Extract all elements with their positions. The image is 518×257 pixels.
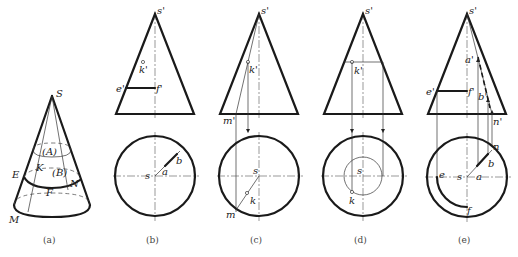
label-s: s — [457, 171, 462, 182]
label-s-prime: s' — [469, 5, 477, 16]
label-e: E — [11, 169, 20, 180]
label-s-prime: s' — [261, 5, 269, 16]
label-e: e — [439, 169, 445, 180]
label-b: b — [488, 158, 494, 169]
label-k: k — [250, 195, 256, 206]
label-k: K — [35, 162, 44, 173]
panel-e: s' a' b' e' f' n' s a b n e f (e) — [425, 5, 511, 245]
label-region-a: (A) — [42, 146, 57, 157]
label-b-prime: b' — [478, 91, 487, 102]
cone-base-visible-arc — [14, 205, 90, 217]
label-n: N — [69, 178, 80, 189]
panel-a-pictorial-cone: S (A) K (B) E F N M (a) — [8, 88, 90, 245]
label-b: b — [176, 155, 182, 166]
panel-b: s' k' e' f' s a b (b) — [113, 5, 199, 245]
caption-d: (d) — [354, 235, 367, 245]
label-f: F — [45, 187, 54, 198]
panel-d: s' k' s k (d) — [321, 5, 407, 245]
line-a-b — [477, 154, 488, 166]
label-f: f — [466, 205, 473, 216]
label-region-b: (B) — [52, 167, 67, 178]
label-s: s — [253, 165, 258, 176]
label-e-prime: e' — [116, 83, 125, 94]
caption-a: (a) — [43, 235, 55, 245]
label-k: k — [349, 195, 355, 206]
caption-b: (b) — [146, 235, 159, 245]
label-f-prime: f' — [155, 83, 162, 94]
label-k-prime: k' — [354, 65, 363, 76]
label-apex-s: S — [56, 88, 63, 99]
label-a: a — [476, 171, 482, 182]
panel-c: s' k' m' s k m (c) — [217, 5, 303, 245]
point-k — [245, 191, 248, 194]
label-n-prime: n' — [493, 116, 502, 127]
label-k-prime: k' — [249, 64, 258, 75]
cone-projection-figure: S (A) K (B) E F N M (a) s' k' e' f' s a … — [0, 0, 518, 257]
label-a: a — [162, 166, 168, 177]
label-e-prime: e' — [426, 86, 435, 97]
point-k — [350, 190, 353, 193]
label-m: m — [226, 209, 235, 220]
arc-e-f — [437, 177, 467, 207]
label-f-prime: f' — [467, 86, 474, 97]
label-n: n — [493, 141, 499, 152]
label-k-prime: k' — [139, 64, 148, 75]
label-s: s — [357, 165, 362, 176]
label-m-prime: m' — [223, 115, 235, 126]
label-a-prime: a' — [465, 54, 474, 65]
label-s: s — [145, 170, 150, 181]
caption-e: (e) — [458, 235, 470, 245]
label-m: M — [8, 214, 20, 225]
label-s-prime: s' — [365, 5, 373, 16]
label-s-prime: s' — [157, 5, 165, 16]
caption-c: (c) — [250, 235, 262, 245]
